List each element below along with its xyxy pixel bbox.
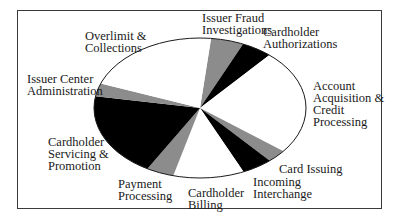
- label-account-acquisition: Account Acquisition & Credit Processing: [313, 80, 384, 128]
- label-overlimit-collections: Overlimit & Collections: [85, 30, 146, 54]
- label-cardholder-billing: Cardholder Billing: [188, 187, 244, 211]
- label-card-issuing: Card Issuing: [279, 163, 343, 175]
- label-issuer-center-administration: Issuer Center Administration: [27, 73, 103, 97]
- label-incoming-interchange: Incoming Interchange: [253, 176, 312, 200]
- label-issuer-fraud-investigations: Issuer Fraud Investigations: [202, 12, 272, 36]
- label-cardholder-servicing: Cardholder Servicing & Promotion: [48, 136, 109, 172]
- label-payment-processing: Payment Processing: [118, 178, 172, 202]
- label-cardholder-authorizations: Cardholder Authorizations: [263, 26, 337, 50]
